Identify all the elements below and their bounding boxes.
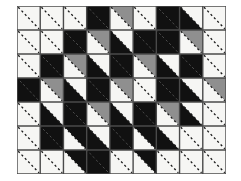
grid-cells — [17, 6, 226, 174]
grid-cell — [63, 78, 86, 102]
grid-cell — [156, 30, 179, 54]
grid-cell — [63, 6, 86, 30]
grid-cell — [87, 126, 110, 150]
grid-cell — [110, 6, 133, 30]
grid-cell — [63, 102, 86, 126]
grid-cell — [156, 54, 179, 78]
grid-cell — [110, 126, 133, 150]
grid-cell — [110, 30, 133, 54]
grid-cell — [87, 30, 110, 54]
grid-cell — [133, 78, 156, 102]
grid-cell — [133, 30, 156, 54]
grid-cell — [156, 126, 179, 150]
grid-cell — [156, 102, 179, 126]
grid-cell — [156, 78, 179, 102]
grid-cell — [40, 78, 63, 102]
grid-cell — [87, 54, 110, 78]
grid-cell — [133, 126, 156, 150]
grid-cell — [180, 30, 203, 54]
grid-cell — [180, 126, 203, 150]
grid-cell — [203, 126, 226, 150]
grid-cell — [87, 150, 110, 174]
grid-cell — [40, 6, 63, 30]
grid-cell — [40, 30, 63, 54]
grid-cell — [87, 6, 110, 30]
grid-cell — [180, 78, 203, 102]
grid-cell — [17, 78, 40, 102]
grid-cell — [110, 78, 133, 102]
grid-cell — [203, 30, 226, 54]
grid-cell — [203, 78, 226, 102]
grid-cell — [17, 6, 40, 30]
grid-cell — [180, 102, 203, 126]
grid-cell — [180, 54, 203, 78]
grid-cell — [203, 54, 226, 78]
grid-cell — [40, 126, 63, 150]
grid-cell — [203, 150, 226, 174]
grid-cell — [133, 54, 156, 78]
grid-cell — [87, 78, 110, 102]
grid-cell — [40, 54, 63, 78]
grid-cell — [63, 54, 86, 78]
grid-cell — [156, 150, 179, 174]
grid-cell — [133, 6, 156, 30]
grid-cell — [110, 54, 133, 78]
grid-cell — [40, 102, 63, 126]
grid-cell — [63, 150, 86, 174]
grid-cell — [17, 150, 40, 174]
grid-cell — [40, 150, 63, 174]
grid-cell — [203, 102, 226, 126]
grid-cell — [203, 6, 226, 30]
grid-cell — [180, 6, 203, 30]
grid-cell — [17, 126, 40, 150]
grid-cell — [17, 30, 40, 54]
quilt-pattern-grid — [17, 6, 226, 174]
grid-cell — [133, 150, 156, 174]
grid-cell — [63, 30, 86, 54]
grid-cell — [133, 102, 156, 126]
grid-cell — [110, 150, 133, 174]
grid-cell — [63, 126, 86, 150]
grid-cell — [87, 102, 110, 126]
grid-cell — [110, 102, 133, 126]
grid-cell — [17, 54, 40, 78]
grid-cell — [180, 150, 203, 174]
grid-cell — [156, 6, 179, 30]
image-canvas — [0, 0, 241, 181]
grid-cell — [17, 102, 40, 126]
